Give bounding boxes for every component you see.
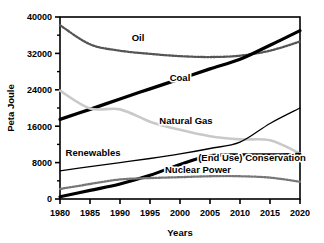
x-axis-label: Years [167,227,192,238]
x-tick-label: 1990 [110,208,130,218]
series-label-coal: Coal [170,72,191,83]
x-axis-tick-labels: 198019851990199520002005201020152020 [50,208,310,218]
x-tick-label: 2015 [260,208,280,218]
x-tick-label: 2010 [230,208,250,218]
y-tick-label: 16000 [27,122,52,132]
energy-projection-chart: 0800016000240003200040000 19801985199019… [0,0,324,243]
series-label-natural-gas: Natural Gas [159,115,212,126]
y-tick-label: 40000 [27,12,52,22]
x-tick-label: 2020 [290,208,310,218]
x-tick-label: 2005 [200,208,220,218]
y-tick-label: 24000 [27,85,52,95]
y-axis-label: Peta Joule [5,84,16,132]
series-label-renewables: Renewables [66,147,121,158]
y-tick-label: 8000 [32,158,52,168]
series-label-nuclear-power: Nuclear Power [165,164,231,175]
chart-canvas: 0800016000240003200040000 19801985199019… [0,0,324,243]
series-label-oil: Oil [132,32,145,43]
x-tick-label: 1985 [80,208,100,218]
x-tick-label: 1995 [140,208,160,218]
x-tick-label: 1980 [50,208,70,218]
y-tick-label: 0 [47,194,52,204]
y-tick-label: 32000 [27,49,52,59]
x-tick-label: 2000 [170,208,190,218]
series-label-end-use-conservation: (End Use) Conservation [198,152,306,163]
